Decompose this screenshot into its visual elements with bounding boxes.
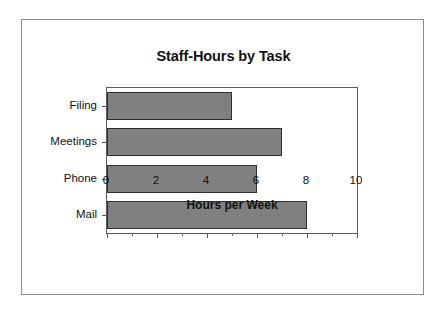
y-tick-mark [102, 142, 107, 143]
x-tick-label-6: 6 [253, 174, 259, 186]
bar-row [107, 128, 357, 156]
x-tick-minor [282, 233, 283, 236]
chart-outer-frame: Staff-Hours by Task FilingMeetingsPhoneM… [21, 19, 424, 295]
x-tick-minor [332, 233, 333, 236]
x-tick-minor [232, 233, 233, 236]
x-tick-label-10: 10 [350, 174, 363, 186]
x-tick-label-8: 8 [303, 174, 309, 186]
x-tick-label-4: 4 [203, 174, 209, 186]
chart-title: Staff-Hours by Task [22, 48, 425, 64]
y-tick-label-phone: Phone [64, 172, 97, 184]
y-tick-mark [102, 106, 107, 107]
x-tick-minor [182, 233, 183, 236]
x-tick-minor [132, 233, 133, 236]
y-tick-label-mail: Mail [76, 208, 97, 220]
y-tick-mark [102, 215, 107, 216]
y-tick-label-meetings: Meetings [50, 135, 97, 147]
bar-phone [107, 165, 257, 193]
x-tick-major [157, 233, 158, 238]
y-tick-label-filing: Filing [70, 99, 97, 111]
bar-row [107, 92, 357, 120]
x-tick-major [357, 233, 358, 238]
bar-row [107, 165, 357, 193]
bar-meetings [107, 128, 282, 156]
x-tick-major [307, 233, 308, 238]
x-tick-major [207, 233, 208, 238]
x-tick-label-2: 2 [153, 174, 159, 186]
x-axis-title: Hours per Week [106, 198, 358, 212]
x-tick-label-0: 0 [103, 174, 109, 186]
bar-filing [107, 92, 232, 120]
x-tick-major [107, 233, 108, 238]
x-tick-major [257, 233, 258, 238]
